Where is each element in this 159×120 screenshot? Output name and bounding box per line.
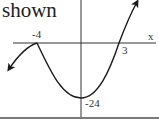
curve-left-arm — [9, 43, 37, 69]
y-intercept-label: -24 — [85, 97, 100, 109]
root-left-label: -4 — [32, 28, 42, 40]
bottom-divider — [0, 117, 159, 119]
root-right-label: 3 — [122, 44, 128, 56]
polynomial-graph: x -4 3 -24 — [0, 0, 159, 120]
x-axis-label: x — [148, 30, 154, 42]
